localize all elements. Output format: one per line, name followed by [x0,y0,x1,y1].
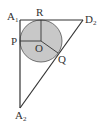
label-a2: A2 [15,109,27,123]
label-r: R [36,6,44,18]
label-o: O [35,42,43,54]
label-p: P [11,35,17,47]
label-d2: D2 [85,13,97,27]
label-a1: A1 [7,10,19,24]
geometry-diagram: A1 R D2 P O Q A2 [0,0,104,124]
label-q: Q [58,53,66,65]
